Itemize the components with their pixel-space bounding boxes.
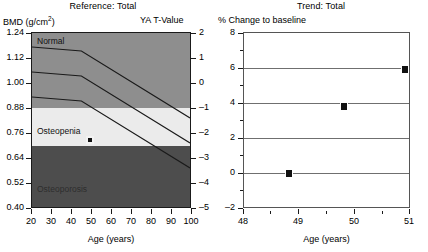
trend-age-tick-50: [354, 209, 355, 214]
pct-tick-label-0: 0: [212, 167, 235, 177]
trend-gridline-6: [244, 68, 409, 69]
reference-curve-upper: [32, 47, 190, 118]
bmd-tick-1-00: [26, 83, 31, 84]
trend-age-tick-label-51: 51: [398, 216, 420, 226]
t-tick-1: [191, 58, 196, 59]
pct-tick-1-minor: [240, 155, 243, 156]
trend-age-tick-48-5-minor: [270, 211, 271, 214]
trend-age-tick-49: [298, 209, 299, 214]
age-tick-80: [151, 209, 152, 214]
bmd-axis-label: BMD (g/cm2): [3, 15, 55, 27]
t-tick-label-0: 0: [199, 77, 204, 87]
age-tick-90: [171, 209, 172, 214]
t-tick-label-m2: –2: [199, 127, 209, 137]
trend-chart-title: Trend: Total: [214, 1, 428, 11]
reference-x-axis-caption: Age (years): [31, 234, 191, 244]
t-tick-label-2: 2: [199, 27, 204, 37]
bmd-tick-label-1-00: 1.00: [0, 77, 24, 87]
trend-data-point-3[interactable]: [401, 65, 409, 74]
bmd-tick-1-12: [26, 58, 31, 59]
age-tick-100: [191, 209, 192, 214]
pct-tick-m1-minor: [240, 190, 243, 191]
trend-age-tick-label-49: 49: [287, 216, 309, 226]
bmd-tick-label-0-76: 0.76: [0, 127, 24, 137]
reference-plot-area: Normal Osteopenia Osteoporosis: [31, 32, 191, 208]
reference-chart-panel: Reference: Total BMD (g/cm2) YA T-Value …: [0, 0, 214, 252]
reference-curve-lower: [32, 97, 190, 168]
t-tick-m2: [191, 133, 196, 134]
age-tick-40: [71, 209, 72, 214]
pct-tick-2: [238, 138, 243, 139]
pct-change-axis-label: % Change to baseline: [218, 15, 306, 25]
trend-gridline-0: [244, 173, 409, 174]
age-tick-70: [131, 209, 132, 214]
pct-tick-label-m2: –2: [212, 202, 235, 212]
age-tick-20: [31, 209, 32, 214]
trend-age-tick-label-50: 50: [343, 216, 365, 226]
patient-measurement-marker[interactable]: [86, 136, 94, 144]
bmd-tick-label-0-40: 0.40: [0, 202, 24, 212]
pct-tick-6: [238, 68, 243, 69]
pct-tick-5-minor: [240, 85, 243, 86]
t-tick-m3: [191, 158, 196, 159]
reference-curves: [32, 33, 190, 207]
pct-tick-7-minor: [240, 50, 243, 51]
t-tick-label-m3: –3: [199, 152, 209, 162]
bmd-tick-label-0-64: 0.64: [0, 152, 24, 162]
t-tick-m4: [191, 183, 196, 184]
trend-age-tick-49-5-minor: [326, 211, 327, 214]
age-tick-60: [111, 209, 112, 214]
bmd-tick-0-52: [26, 183, 31, 184]
t-tick-0: [191, 83, 196, 84]
trend-chart-panel: Trend: Total % Change to baseline 8 6 4 …: [214, 0, 428, 252]
reference-chart-title: Reference: Total: [8, 1, 198, 11]
pct-tick-label-4: 4: [212, 97, 235, 107]
bmd-tick-1-24: [26, 33, 31, 34]
trend-data-point-2[interactable]: [340, 102, 348, 111]
trend-gridline-2: [244, 138, 409, 139]
t-tick-label-m4: –4: [199, 177, 209, 187]
age-tick-label-100: 100: [179, 216, 203, 226]
t-tick-2: [191, 33, 196, 34]
trend-data-point-1[interactable]: [285, 169, 293, 178]
reference-curve-mean: [32, 72, 190, 143]
bmd-axis-label-close: ): [52, 17, 55, 27]
bmd-tick-0-64: [26, 158, 31, 159]
t-tick-label-m5: –5: [199, 202, 209, 212]
age-tick-30: [51, 209, 52, 214]
trend-x-axis-caption: Age (years): [243, 234, 410, 244]
bmd-tick-label-1-24: 1.24: [0, 27, 24, 37]
pct-tick-3-minor: [240, 120, 243, 121]
trend-age-tick-48: [243, 209, 244, 214]
trend-plot-area: [243, 32, 410, 208]
pct-tick-label-6: 6: [212, 62, 235, 72]
bmd-axis-label-main: BMD (g/cm: [3, 17, 48, 27]
trend-age-tick-label-48: 48: [232, 216, 254, 226]
t-value-axis-label: YA T-Value: [140, 15, 184, 25]
trend-age-tick-51: [409, 209, 410, 214]
t-tick-label-1: 1: [199, 52, 204, 62]
pct-tick-4: [238, 103, 243, 104]
age-tick-50: [91, 209, 92, 214]
trend-age-tick-50-5-minor: [382, 211, 383, 214]
t-tick-label-m1: –1: [199, 102, 209, 112]
bmd-tick-label-1-12: 1.12: [0, 52, 24, 62]
bmd-tick-0-76: [26, 133, 31, 134]
bmd-tick-label-0-88: 0.88: [0, 102, 24, 112]
bmd-tick-0-88: [26, 108, 31, 109]
pct-tick-label-2: 2: [212, 132, 235, 142]
t-tick-m1: [191, 108, 196, 109]
pct-tick-8: [238, 33, 243, 34]
pct-tick-0: [238, 173, 243, 174]
bmd-tick-label-0-52: 0.52: [0, 177, 24, 187]
pct-tick-label-8: 8: [212, 27, 235, 37]
trend-gridline-4: [244, 103, 409, 104]
